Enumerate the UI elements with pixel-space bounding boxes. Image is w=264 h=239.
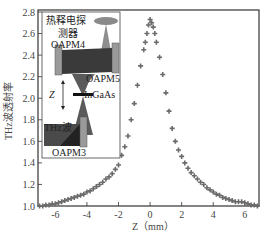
data-point (195, 177, 200, 182)
x-axis-title: Z（mm） (132, 221, 174, 232)
data-point (113, 167, 118, 172)
data-point (189, 170, 194, 175)
inset-diagram: 热释电探 测器 OAPM4 OAPM5 Z InGaAs THz波 OAPM3 (42, 12, 120, 158)
data-point (179, 154, 184, 159)
data-point (110, 171, 115, 176)
data-point (129, 117, 134, 122)
data-point (192, 173, 197, 178)
x-tick-label: 6 (242, 209, 247, 220)
y-tick-label: 2.0 (23, 93, 36, 104)
data-point (176, 147, 181, 152)
y-tick-label: 1.6 (23, 136, 36, 147)
data-point (141, 47, 146, 52)
y-tick-label: 2.8 (23, 7, 36, 18)
data-point (151, 25, 156, 30)
data-point (154, 40, 159, 45)
y-tick-label: 1.0 (23, 201, 36, 212)
data-point (182, 160, 187, 165)
data-point (185, 166, 190, 171)
y-axis-title: THz波透射率 (2, 82, 14, 140)
data-point (152, 31, 157, 36)
data-point (167, 109, 172, 114)
x-tick-label: -6 (51, 209, 59, 220)
data-point (122, 144, 127, 149)
z-label: Z (49, 89, 55, 100)
data-point (144, 31, 149, 36)
oapm3-label: OAPM3 (52, 147, 86, 158)
data-point (116, 163, 121, 168)
oapm4-label: OAPM4 (51, 39, 85, 50)
chart: 1.01.21.41.61.82.02.22.42.62.8 -6-4-2024… (0, 0, 264, 239)
y-tick-label: 1.4 (23, 157, 36, 168)
ingaas-label: InGaAs (84, 89, 115, 100)
data-point (132, 101, 137, 106)
oapm5-label: OAPM5 (86, 73, 120, 84)
detector-label-1: 热释电探 (46, 14, 86, 26)
data-point (143, 40, 148, 45)
y-tick-label: 1.8 (23, 114, 36, 125)
oapm3-mirror (80, 117, 87, 147)
data-point (138, 63, 143, 68)
y-tick-label: 2.4 (23, 50, 36, 61)
data-point (135, 83, 140, 88)
data-point (160, 72, 165, 77)
x-tick-label: -2 (114, 209, 122, 220)
y-tick-label: 1.2 (23, 179, 36, 190)
beam-horizontal (62, 48, 112, 74)
data-point (157, 55, 162, 60)
data-point (173, 139, 178, 144)
x-axis: -6-4-20246 (51, 202, 247, 220)
data-point (163, 90, 168, 95)
data-point (125, 133, 130, 138)
x-tick-label: 2 (179, 209, 184, 220)
x-tick-label: -4 (83, 209, 91, 220)
oapm5-mirror (112, 43, 119, 73)
detector-label-2: 测器 (58, 27, 78, 39)
y-tick-label: 2.6 (23, 28, 36, 39)
x-tick-label: 0 (148, 209, 153, 220)
y-axis: 1.01.21.41.61.82.02.22.42.62.8 (23, 7, 43, 212)
x-tick-label: 4 (211, 209, 216, 220)
data-point (170, 126, 175, 131)
thz-label: THz波 (44, 121, 72, 133)
y-tick-label: 2.2 (23, 71, 36, 82)
detector-icon (94, 17, 118, 25)
